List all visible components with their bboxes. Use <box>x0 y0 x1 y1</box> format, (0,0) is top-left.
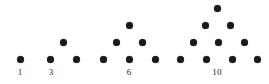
dot <box>227 22 234 29</box>
dot <box>241 39 248 46</box>
dot <box>215 39 222 46</box>
dot <box>229 56 236 63</box>
triangular-numbers-figure: 13610 <box>0 0 269 84</box>
dot-group-10: 10 <box>0 0 269 84</box>
dot <box>202 22 209 29</box>
dot <box>177 56 184 63</box>
dot <box>254 56 261 63</box>
group-label-10: 10 <box>212 67 221 77</box>
dot <box>214 5 221 12</box>
dot <box>190 39 197 46</box>
dot <box>203 56 210 63</box>
